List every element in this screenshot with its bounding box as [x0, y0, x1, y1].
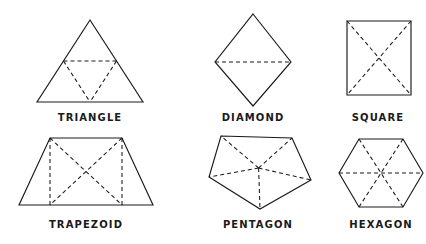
pentagon-dashed-spoke-5 — [209, 168, 259, 177]
shape-label-hexagon: HEXAGON — [333, 219, 426, 230]
shape-label-square: SQUARE — [330, 112, 426, 123]
pentagon-dashed-spoke-3 — [259, 168, 311, 180]
hexagon-figure — [333, 134, 426, 216]
shapes-chart-sheet: TRIANGLE DIAMOND SQUARE TRAPEZOID — [0, 0, 426, 244]
shape-label-diamond: DIAMOND — [198, 112, 308, 123]
pentagon-dashed-spoke-2 — [259, 138, 292, 168]
triangle-outline — [37, 20, 143, 102]
pentagon-dashed-spoke-1 — [221, 136, 259, 168]
square-figure — [330, 16, 426, 108]
triangle-dashed-right-leg — [90, 61, 117, 102]
trapezoid-figure — [14, 133, 158, 213]
shape-cell-pentagon: PENTAGON — [200, 130, 316, 237]
shape-cell-square: SQUARE — [330, 16, 426, 126]
shape-label-pentagon: PENTAGON — [200, 219, 316, 230]
shape-cell-hexagon: HEXAGON — [333, 134, 426, 237]
pentagon-figure — [200, 130, 316, 216]
shape-cell-diamond: DIAMOND — [198, 10, 308, 126]
diamond-outline — [215, 14, 291, 106]
pentagon-dashed-spoke-4 — [259, 168, 260, 209]
triangle-dashed-left-leg — [64, 61, 91, 102]
shape-label-triangle: TRIANGLE — [30, 112, 150, 123]
shape-cell-triangle: TRIANGLE — [30, 14, 150, 126]
triangle-figure — [30, 14, 150, 110]
shape-label-trapezoid: TRAPEZOID — [14, 219, 158, 230]
diamond-figure — [198, 10, 308, 110]
shape-cell-trapezoid: TRAPEZOID — [14, 133, 158, 237]
